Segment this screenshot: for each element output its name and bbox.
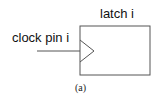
figure-caption: (a) (75, 83, 86, 93)
clock-pin-label: clock pin i (12, 31, 69, 44)
latch-box (80, 26, 150, 75)
latch-label: latch i (100, 7, 134, 20)
clock-triangle-icon (80, 40, 94, 62)
